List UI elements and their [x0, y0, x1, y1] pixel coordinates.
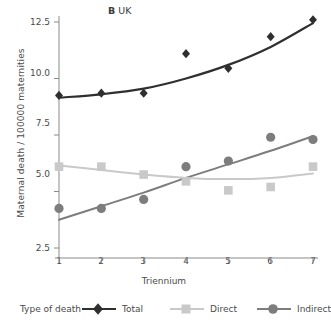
- data-point-indirect-6[interactable]: [266, 133, 275, 142]
- legend-marker-indirect-icon: [255, 299, 293, 319]
- data-point-total-1[interactable]: [55, 91, 63, 100]
- data-point-indirect-3[interactable]: [139, 195, 148, 204]
- data-point-direct-4[interactable]: [182, 177, 191, 186]
- trend-line-total: [59, 23, 313, 98]
- data-point-total-7[interactable]: [309, 15, 317, 24]
- data-point-direct-5[interactable]: [224, 186, 233, 195]
- data-point-total-6[interactable]: [267, 32, 275, 41]
- data-point-indirect-4[interactable]: [181, 162, 190, 171]
- data-point-direct-1[interactable]: [55, 162, 64, 171]
- legend-label-direct: Direct: [210, 304, 237, 314]
- data-point-direct-7[interactable]: [309, 162, 318, 171]
- legend: Type of death Total Direct Indirect: [0, 299, 328, 323]
- data-point-indirect-5[interactable]: [224, 156, 233, 165]
- data-point-direct-3[interactable]: [139, 170, 148, 179]
- legend-marker-direct-icon: [168, 299, 206, 319]
- legend-label-indirect: Indirect: [297, 304, 331, 314]
- data-point-indirect-7[interactable]: [308, 135, 317, 144]
- data-point-direct-6[interactable]: [266, 183, 275, 192]
- legend-title: Type of death: [20, 304, 81, 314]
- legend-label-total: Total: [122, 304, 143, 314]
- data-point-total-2[interactable]: [97, 89, 105, 98]
- data-point-indirect-1[interactable]: [54, 204, 63, 213]
- plot-area: [0, 0, 328, 295]
- data-point-total-4[interactable]: [182, 49, 190, 58]
- legend-marker-total-icon: [80, 299, 118, 319]
- data-point-indirect-2[interactable]: [97, 204, 106, 213]
- data-point-direct-2[interactable]: [97, 162, 106, 171]
